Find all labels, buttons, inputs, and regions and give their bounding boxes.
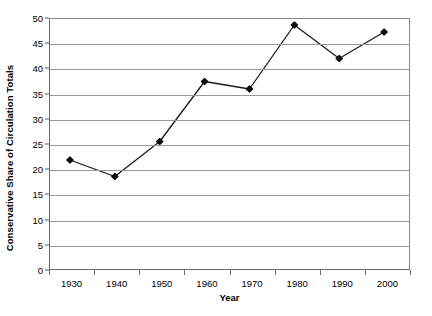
y-axis-tick-label: 25 <box>32 139 43 150</box>
y-axis-tick-label: 15 <box>32 189 43 200</box>
gridline <box>50 95 409 96</box>
gridline <box>50 145 409 146</box>
y-axis-tick-mark <box>45 43 49 44</box>
x-axis-tick-mark <box>49 270 50 275</box>
x-axis-tick-label: 1980 <box>287 278 308 289</box>
gridline <box>50 120 409 121</box>
gridline <box>50 221 409 222</box>
y-axis-tick-mark <box>45 169 49 170</box>
y-axis-tick-labels: 05101520253035404550 <box>18 0 46 316</box>
x-axis-tick-mark <box>320 270 321 275</box>
y-axis-tick-mark <box>45 144 49 145</box>
x-axis-tick-label: 1930 <box>61 278 82 289</box>
x-axis-tick-label: 1960 <box>196 278 217 289</box>
x-axis-tick-label: 2000 <box>377 278 398 289</box>
series-line-conservative-share <box>50 19 409 269</box>
y-axis-tick-label: 35 <box>32 88 43 99</box>
x-axis-tick-mark <box>275 270 276 275</box>
gridline <box>50 195 409 196</box>
y-axis-tick-label: 0 <box>38 265 43 276</box>
x-axis-tick-label: 1970 <box>241 278 262 289</box>
x-axis-title: Year <box>49 292 410 303</box>
plot-area <box>49 18 410 270</box>
data-point-marker <box>381 29 387 35</box>
x-axis-tick-mark <box>230 270 231 275</box>
y-axis-tick-mark <box>45 118 49 119</box>
y-axis-tick-mark <box>45 219 49 220</box>
gridline <box>50 246 409 247</box>
y-axis-tick-mark <box>45 194 49 195</box>
y-axis-tick-mark <box>45 68 49 69</box>
x-axis-tick-label: 1940 <box>106 278 127 289</box>
y-axis-tick-label: 45 <box>32 38 43 49</box>
x-axis-tick-label: 1950 <box>151 278 172 289</box>
data-point-marker <box>67 157 73 163</box>
x-axis-tick-mark <box>94 270 95 275</box>
y-axis-tick-mark <box>45 244 49 245</box>
y-axis-tick-mark <box>45 18 49 19</box>
line-chart: Conservative Share of Circulation Totals… <box>0 0 432 316</box>
x-axis-tick-mark <box>184 270 185 275</box>
gridline <box>50 44 409 45</box>
y-axis-tick-label: 30 <box>32 113 43 124</box>
y-axis-tick-label: 40 <box>32 63 43 74</box>
y-axis-tick-mark <box>45 93 49 94</box>
series-line <box>70 25 384 176</box>
gridline <box>50 69 409 70</box>
y-axis-tick-label: 50 <box>32 13 43 24</box>
y-axis-title: Conservative Share of Circulation Totals <box>0 0 18 316</box>
y-axis-tick-label: 10 <box>32 214 43 225</box>
y-axis-tick-label: 5 <box>38 239 43 250</box>
gridline <box>50 170 409 171</box>
x-axis-tick-mark <box>410 270 411 275</box>
x-axis-tick-mark <box>139 270 140 275</box>
y-axis-tick-label: 20 <box>32 164 43 175</box>
x-axis-tick-mark <box>365 270 366 275</box>
x-axis-tick-label: 1990 <box>332 278 353 289</box>
